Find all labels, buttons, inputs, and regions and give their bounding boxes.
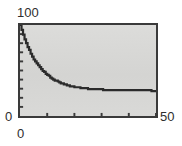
y-axis-max-label: 100 xyxy=(17,6,39,19)
plot-canvas xyxy=(20,25,156,116)
chart-figure: 100 0 0 50 xyxy=(0,0,182,146)
plot-area xyxy=(18,23,158,118)
y-axis-min-label: 0 xyxy=(5,110,12,123)
data-series-line xyxy=(20,25,156,91)
x-axis-max-label: 50 xyxy=(160,110,174,123)
x-axis-min-label: 0 xyxy=(17,127,24,140)
axis-ticks xyxy=(20,34,156,116)
